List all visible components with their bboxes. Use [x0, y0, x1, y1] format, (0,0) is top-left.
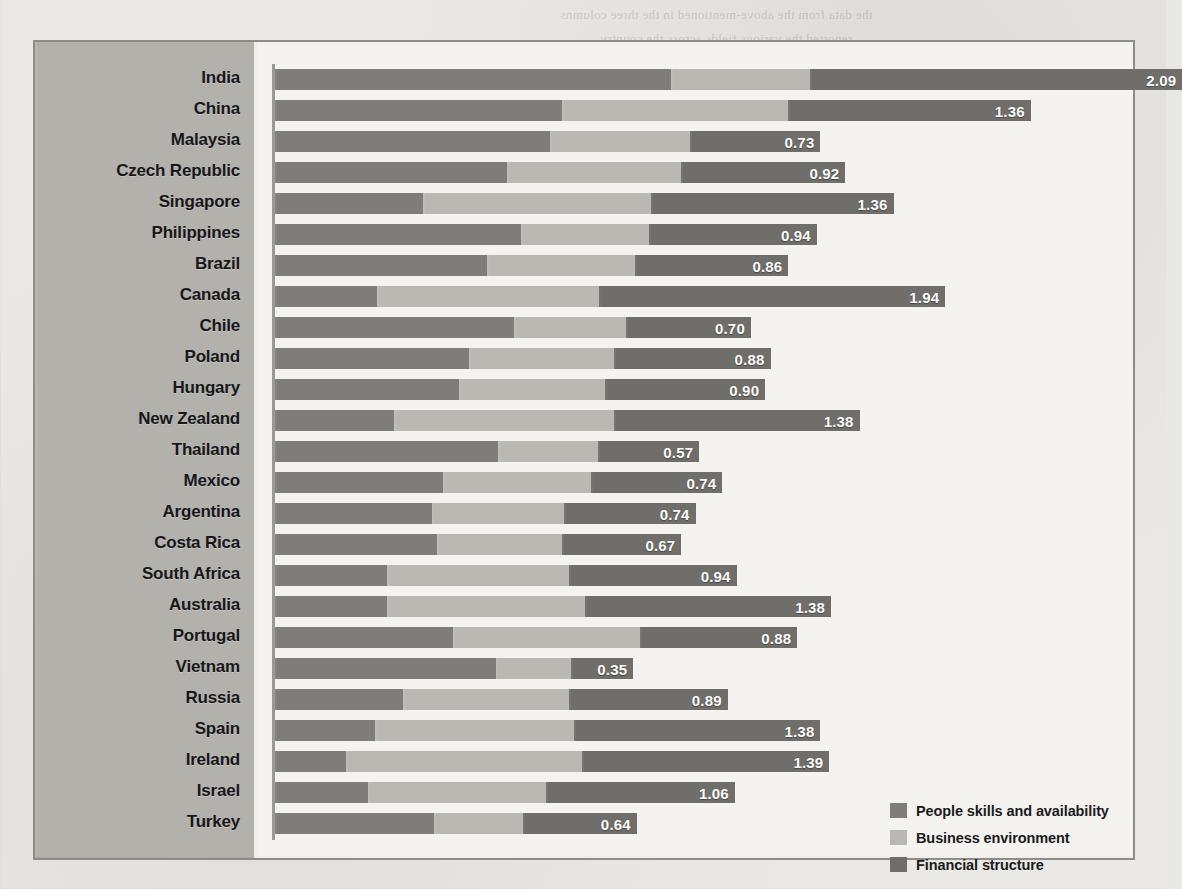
legend-swatch-icon — [890, 830, 907, 845]
stacked-bar[interactable]: 1.36 — [275, 100, 1031, 121]
bar-segment-people-skills-and-availability — [275, 689, 403, 710]
bar-value-label: 1.36 — [858, 195, 888, 212]
bar-segment-business-environment — [432, 503, 564, 524]
bar-row: Mexico0.74 — [35, 467, 1133, 498]
bar-segment-financial-structure: 0.90 — [605, 379, 765, 400]
stacked-bar[interactable]: 0.67 — [275, 534, 681, 555]
bar-segment-people-skills-and-availability — [275, 255, 487, 276]
bar-value-label: 0.94 — [781, 226, 811, 243]
stacked-bar[interactable]: 0.86 — [275, 255, 788, 276]
stacked-bar[interactable]: 1.39 — [275, 751, 829, 772]
stacked-bar[interactable]: 0.94 — [275, 565, 737, 586]
bar-segment-financial-structure: 0.73 — [690, 131, 820, 152]
country-label: Poland — [35, 347, 240, 367]
bar-segment-people-skills-and-availability — [275, 348, 469, 369]
stacked-bar[interactable]: 0.74 — [275, 503, 696, 524]
bar-segment-people-skills-and-availability — [275, 658, 496, 679]
chart-legend: People skills and availabilityBusiness e… — [890, 797, 1140, 878]
stacked-bar[interactable]: 1.94 — [275, 286, 945, 307]
country-label: Canada — [35, 285, 240, 305]
bar-segment-people-skills-and-availability — [275, 596, 387, 617]
country-label: Spain — [35, 719, 240, 739]
bar-value-label: 0.57 — [663, 443, 693, 460]
country-label: Argentina — [35, 502, 240, 522]
bar-segment-people-skills-and-availability — [275, 503, 432, 524]
bar-segment-business-environment — [368, 782, 546, 803]
stacked-bar[interactable]: 0.70 — [275, 317, 751, 338]
bar-row: Russia0.89 — [35, 684, 1133, 715]
bar-segment-business-environment — [498, 441, 598, 462]
bar-value-label: 0.67 — [645, 536, 675, 553]
country-label: South Africa — [35, 564, 240, 584]
stacked-bar[interactable]: 1.36 — [275, 193, 894, 214]
bar-row: South Africa0.94 — [35, 560, 1133, 591]
bar-value-label: 1.38 — [795, 598, 825, 615]
stacked-bar[interactable]: 1.06 — [275, 782, 735, 803]
bar-segment-financial-structure: 1.36 — [651, 193, 893, 214]
country-label: Chile — [35, 316, 240, 336]
stacked-bar[interactable]: 1.38 — [275, 410, 860, 431]
stacked-bar[interactable]: 0.92 — [275, 162, 845, 183]
bar-segment-business-environment — [514, 317, 626, 338]
bar-row: New Zealand1.38 — [35, 405, 1133, 436]
stacked-bar[interactable]: 2.09 — [275, 69, 1182, 90]
bar-segment-financial-structure: 0.94 — [649, 224, 817, 245]
bar-row: Hungary0.90 — [35, 374, 1133, 405]
stacked-bar[interactable]: 0.64 — [275, 813, 637, 834]
bar-segment-financial-structure: 0.57 — [598, 441, 700, 462]
bar-segment-business-environment — [377, 286, 600, 307]
bar-value-label: 1.39 — [793, 753, 823, 770]
bar-row: Spain1.38 — [35, 715, 1133, 746]
bar-value-label: 1.38 — [824, 412, 854, 429]
bar-segment-financial-structure: 0.74 — [564, 503, 696, 524]
legend-item[interactable]: People skills and availability — [890, 797, 1140, 824]
stacked-bar[interactable]: 0.57 — [275, 441, 699, 462]
stacked-bar[interactable]: 0.88 — [275, 627, 797, 648]
bar-segment-people-skills-and-availability — [275, 100, 562, 121]
country-label: Vietnam — [35, 657, 240, 677]
stacked-bar[interactable]: 0.88 — [275, 348, 771, 369]
stacked-bar[interactable]: 0.74 — [275, 472, 722, 493]
bar-row: Singapore1.36 — [35, 188, 1133, 219]
stacked-bar[interactable]: 0.35 — [275, 658, 633, 679]
bar-row: Australia1.38 — [35, 591, 1133, 622]
legend-label: Financial structure — [916, 857, 1044, 873]
stacked-bar[interactable]: 1.38 — [275, 596, 831, 617]
stacked-bar[interactable]: 0.94 — [275, 224, 817, 245]
bar-value-label: 0.35 — [597, 660, 627, 677]
bar-segment-people-skills-and-availability — [275, 379, 459, 400]
stacked-bar[interactable]: 0.89 — [275, 689, 728, 710]
bar-value-label: 0.88 — [735, 350, 765, 367]
bar-segment-people-skills-and-availability — [275, 286, 377, 307]
country-label: Portugal — [35, 626, 240, 646]
stacked-bar[interactable]: 0.73 — [275, 131, 820, 152]
bar-value-label: 1.36 — [995, 102, 1025, 119]
bar-segment-financial-structure: 0.94 — [569, 565, 737, 586]
bar-segment-financial-structure: 1.38 — [614, 410, 860, 431]
stacked-bar[interactable]: 1.38 — [275, 720, 820, 741]
bar-value-label: 0.64 — [601, 815, 631, 832]
bar-segment-people-skills-and-availability — [275, 441, 498, 462]
country-label: Malaysia — [35, 130, 240, 150]
bar-segment-people-skills-and-availability — [275, 565, 387, 586]
legend-item[interactable]: Financial structure — [890, 851, 1140, 878]
country-label: Costa Rica — [35, 533, 240, 553]
bar-segment-business-environment — [403, 689, 569, 710]
legend-item[interactable]: Business environment — [890, 824, 1140, 851]
bar-segment-financial-structure: 0.64 — [523, 813, 637, 834]
bar-segment-people-skills-and-availability — [275, 69, 671, 90]
bar-value-label: 0.92 — [809, 164, 839, 181]
country-label: Ireland — [35, 750, 240, 770]
bar-value-label: 2.09 — [1146, 71, 1176, 88]
bar-value-label: 0.70 — [715, 319, 745, 336]
country-label: India — [35, 68, 240, 88]
bar-segment-financial-structure: 2.09 — [810, 69, 1182, 90]
bar-segment-people-skills-and-availability — [275, 627, 453, 648]
bar-row: Argentina0.74 — [35, 498, 1133, 529]
bar-segment-financial-structure: 0.74 — [591, 472, 723, 493]
bar-segment-financial-structure: 1.06 — [546, 782, 735, 803]
bar-segment-business-environment — [562, 100, 788, 121]
stacked-bar[interactable]: 0.90 — [275, 379, 765, 400]
country-label: Czech Republic — [35, 161, 240, 181]
bar-segment-financial-structure: 0.67 — [562, 534, 681, 555]
